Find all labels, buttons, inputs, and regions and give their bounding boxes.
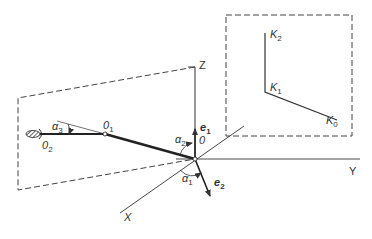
- k2-sub: 2: [277, 34, 281, 43]
- alpha3-arc: [68, 124, 70, 134]
- k2-label: K2: [270, 29, 282, 43]
- o2-sub: 2: [48, 145, 52, 154]
- o1-sub: 1: [109, 125, 113, 134]
- alpha1-sub: 1: [188, 178, 192, 187]
- alpha2-sub: 2: [181, 139, 185, 148]
- trajectory-k: [265, 33, 337, 120]
- e2-vector: [195, 159, 210, 196]
- k1-label: K1: [270, 82, 282, 96]
- k0-label: K0: [326, 115, 338, 129]
- x-axis-label: X: [124, 212, 131, 223]
- o2-label: 02: [42, 140, 53, 154]
- z-axis-label: Z: [199, 60, 206, 71]
- k0-sub: 0: [333, 120, 337, 129]
- alpha3-sub: 3: [58, 126, 62, 135]
- diagram-canvas: Z Y X 0 e1 e2 α1 α2 α3 01 02 K2 K1 K0: [0, 0, 372, 239]
- alpha3-reference-line: [57, 121, 105, 134]
- e1-sub: 1: [206, 127, 210, 136]
- alpha2-label: α2: [175, 134, 186, 148]
- e2-label: e2: [214, 177, 225, 191]
- e2-sub: 2: [220, 182, 224, 191]
- alpha3-label: α3: [52, 121, 63, 135]
- gripper-icon: [26, 131, 40, 138]
- alpha1-label: α1: [182, 173, 193, 187]
- y-axis-label: Y: [349, 166, 356, 177]
- origin-label: 0: [199, 135, 205, 146]
- joint-origin: [193, 157, 197, 161]
- k1-sub: 1: [277, 87, 281, 96]
- o1-label: 01: [103, 120, 114, 134]
- e1-label: e1: [200, 122, 211, 136]
